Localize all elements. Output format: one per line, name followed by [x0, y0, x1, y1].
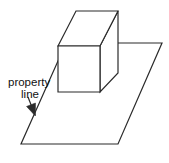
- property-line-diagram: property line: [0, 0, 169, 163]
- property-line-label-line2: line: [21, 88, 39, 100]
- diagram-canvas: property line: [0, 0, 169, 163]
- property-line-label-line1: property: [8, 76, 50, 88]
- leader-arrow-head-icon: [27, 103, 36, 116]
- building-front-face: [58, 46, 100, 92]
